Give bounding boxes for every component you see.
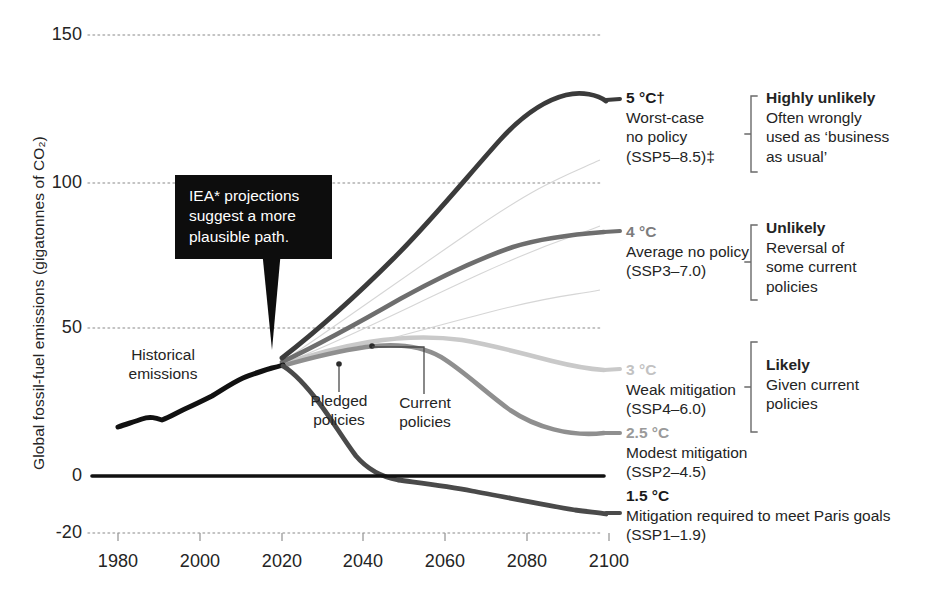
likelihood-0-line3: as usual’ [766,147,889,167]
bracket-likely [745,342,757,432]
likelihood-unlikely: Unlikely Reversal of some current polici… [766,218,856,296]
y-tick-label-150: 150 [28,24,82,45]
scenario-3c-line1: Weak mitigation [626,380,736,400]
chart-figure: Global fossil-fuel emissions (gigatonnes… [0,0,936,601]
scenario-4c-temp: 4 °C [626,222,749,242]
x-tick-label-2040: 2040 [323,551,403,572]
annotation-pledged-line1: Pledged [311,392,368,409]
x-tick-label-2020: 2020 [242,551,322,572]
scenario-label-2p5c: 2.5 °C Modest mitigation (SSP2–4.5) [626,423,747,482]
likelihood-2-line2: policies [766,394,859,414]
scenario-2p5c-line1: Modest mitigation [626,443,747,463]
current-policies-anchor-dot [369,343,375,349]
likelihood-1-title: Unlikely [766,218,856,238]
likelihood-0-line1: Often wrongly [766,108,889,128]
connector-3c [604,369,620,370]
likelihood-0-title: Highly unlikely [766,88,889,108]
annotation-historical-line2: emissions [129,365,198,382]
scenario-4c-line1: Average no policy [626,242,749,262]
x-tick-label-2060: 2060 [405,551,485,572]
scenario-3c-temp: 3 °C [626,360,736,380]
scenario-3c-line2: (SSP4–6.0) [626,399,736,419]
scenario-label-1p5c: 1.5 °C Mitigation required to meet Paris… [626,486,891,545]
annotation-current-policies: Current policies [376,394,474,432]
y-tick-label-50: 50 [28,317,82,338]
callout-line2: suggest a more [189,207,296,224]
x-tick-label-2080: 2080 [487,551,567,572]
callout-pointer [262,250,281,350]
scenario-4c-line2: (SSP3–7.0) [626,261,749,281]
scenario-2p5c-temp: 2.5 °C [626,423,747,443]
likelihood-2-title: Likely [766,355,859,375]
callout-line3: plausible path. [189,228,289,245]
bracket-highly-unlikely [745,96,757,172]
likelihood-1-line3: policies [766,277,856,297]
scenario-1p5c-line2: (SSP1–1.9) [626,525,891,545]
scenario-label-5c: 5 °C† Worst-case no policy (SSP5–8.5)‡ [626,88,715,166]
connector-4c [604,231,620,232]
annotation-current-line2: policies [399,413,451,430]
iea-callout: IEA* projections suggest a more plausibl… [175,175,332,259]
x-tick-label-2000: 2000 [160,551,240,572]
scenario-5c-line3: (SSP5–8.5)‡ [626,147,715,167]
scenario-1p5c-temp: 1.5 °C [626,486,891,506]
scenario-1p5c-line1: Mitigation required to meet Paris goals [626,506,891,526]
likelihood-2-line1: Given current [766,375,859,395]
y-tick-label-100: 100 [28,172,82,193]
callout-line1: IEA* projections [189,187,299,204]
gridlines [88,35,600,533]
pledged-policies-leader [336,361,342,392]
connector-5c [606,99,620,100]
pledged-policies-anchor-dot [336,361,342,367]
y-tick-label-0: 0 [28,465,82,486]
scenario-label-4c: 4 °C Average no policy (SSP3–7.0) [626,222,749,281]
scenario-5c-temp: 5 °C† [626,88,715,108]
series-line-1p5c [283,366,606,514]
x-tick-label-1980: 1980 [78,551,158,572]
scenario-2p5c-line2: (SSP2–4.5) [626,462,747,482]
scenario-connectors [604,99,620,513]
annotation-current-line1: Current [399,394,451,411]
likelihood-likely: Likely Given current policies [766,355,859,414]
scenario-label-3c: 3 °C Weak mitigation (SSP4–6.0) [626,360,736,419]
annotation-historical-emissions: Historical emissions [98,346,228,384]
scenario-5c-line1: Worst-case [626,108,715,128]
annotation-pledged-policies: Pledged policies [289,392,389,430]
current-policies-leader-line [372,347,424,394]
likelihood-1-line1: Reversal of [766,238,856,258]
likelihood-1-line2: some current [766,257,856,277]
likelihood-0-line2: used as ‘business [766,127,889,147]
scenario-5c-line2: no policy [626,127,715,147]
current-policies-leader [369,343,424,394]
x-tick-label-2100: 2100 [569,551,649,572]
x-tick-marks [118,533,609,541]
annotation-pledged-line2: policies [313,411,365,428]
likelihood-highly-unlikely: Highly unlikely Often wrongly used as ‘b… [766,88,889,166]
y-tick-label-minus-20: -20 [22,522,82,543]
annotation-historical-line1: Historical [131,346,195,363]
